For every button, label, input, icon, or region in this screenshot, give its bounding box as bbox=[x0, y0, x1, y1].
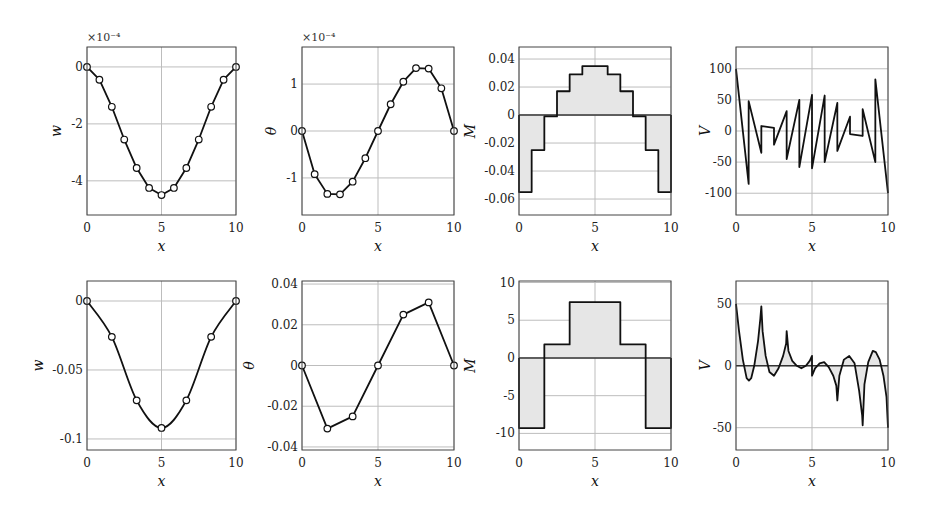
x-tick-label: 10 bbox=[663, 221, 678, 235]
data-marker bbox=[425, 65, 432, 72]
y-tick-label: -0.04 bbox=[484, 164, 515, 178]
x-tick-label: 5 bbox=[591, 456, 599, 470]
x-axis-label: x bbox=[591, 238, 599, 254]
x-axis-label: x bbox=[158, 238, 166, 254]
data-marker bbox=[413, 65, 420, 72]
subplot-bottom-M: 05101050-5-10xM bbox=[462, 276, 679, 489]
x-axis-label: x bbox=[374, 473, 382, 489]
y-tick-label: 10 bbox=[500, 276, 515, 290]
x-tick-label: 0 bbox=[83, 221, 91, 235]
data-marker bbox=[171, 185, 178, 192]
x-axis-label: x bbox=[374, 238, 382, 254]
y-tick-label: -50 bbox=[713, 155, 732, 169]
data-marker bbox=[362, 155, 369, 162]
x-tick-label: 5 bbox=[808, 221, 816, 235]
data-marker bbox=[208, 103, 215, 110]
subplot-bottom-V: 0510500-50xV bbox=[697, 281, 896, 489]
data-marker bbox=[133, 397, 140, 404]
y-tick-label: -4 bbox=[71, 174, 83, 188]
x-tick-label: 0 bbox=[732, 456, 740, 470]
subplot-top-w: 05100-2-4xw×10⁻⁴ bbox=[48, 31, 244, 254]
x-tick-label: 10 bbox=[880, 221, 895, 235]
x-tick-label: 10 bbox=[663, 456, 678, 470]
subplot-top-V: 0510100500-50-100xV bbox=[697, 47, 896, 254]
axis-multiplier: ×10⁻⁴ bbox=[87, 31, 121, 44]
x-tick-label: 5 bbox=[374, 221, 382, 235]
x-axis-label: x bbox=[591, 473, 599, 489]
data-marker bbox=[349, 178, 356, 185]
y-tick-label: 0 bbox=[75, 60, 83, 74]
y-tick-label: 0 bbox=[290, 359, 298, 373]
data-marker bbox=[400, 78, 407, 85]
y-tick-label: 0.02 bbox=[271, 318, 298, 332]
y-axis-label: V bbox=[697, 359, 713, 371]
y-tick-label: -2 bbox=[71, 117, 83, 131]
y-tick-label: 5 bbox=[507, 313, 515, 327]
x-axis-label: x bbox=[808, 473, 816, 489]
y-tick-label: -50 bbox=[713, 421, 732, 435]
data-marker bbox=[121, 136, 128, 143]
data-marker bbox=[425, 299, 432, 306]
subplot-bottom-theta: 05100.040.020-0.02-0.04xθ bbox=[241, 277, 462, 489]
y-tick-label: 0 bbox=[290, 124, 298, 138]
subplot-top-M: 05100.040.020-0.02-0.04-0.06xM bbox=[462, 47, 679, 254]
data-marker bbox=[208, 334, 215, 341]
x-tick-label: 0 bbox=[83, 456, 91, 470]
y-tick-label: 100 bbox=[709, 62, 732, 76]
x-tick-label: 5 bbox=[591, 221, 599, 235]
y-tick-label: 0.04 bbox=[488, 52, 515, 66]
data-marker bbox=[109, 103, 116, 110]
axis-multiplier: ×10⁻⁴ bbox=[302, 31, 336, 44]
x-tick-label: 0 bbox=[515, 456, 523, 470]
y-tick-label: -0.04 bbox=[267, 440, 298, 454]
y-axis-label: w bbox=[48, 125, 64, 137]
data-marker bbox=[324, 425, 331, 432]
y-tick-label: 1 bbox=[290, 77, 298, 91]
y-tick-label: -5 bbox=[503, 389, 515, 403]
y-tick-label: 0 bbox=[724, 359, 732, 373]
x-tick-label: 0 bbox=[732, 221, 740, 235]
data-marker bbox=[195, 136, 202, 143]
x-tick-label: 5 bbox=[374, 456, 382, 470]
data-marker bbox=[109, 334, 116, 341]
y-tick-label: 0.02 bbox=[488, 80, 515, 94]
data-marker bbox=[400, 311, 407, 318]
y-tick-label: 50 bbox=[717, 297, 732, 311]
y-axis-label: M bbox=[462, 358, 478, 374]
y-tick-label: -0.1 bbox=[60, 432, 83, 446]
y-axis-label: w bbox=[30, 359, 46, 371]
data-marker bbox=[133, 165, 140, 172]
x-tick-label: 10 bbox=[228, 456, 243, 470]
y-tick-label: -10 bbox=[496, 426, 515, 440]
data-marker bbox=[375, 128, 382, 135]
data-marker bbox=[158, 192, 165, 199]
figure: 05100-2-4xw×10⁻⁴051010-1xθ×10⁻⁴05100.040… bbox=[0, 0, 931, 509]
x-tick-label: 10 bbox=[446, 221, 461, 235]
data-marker bbox=[183, 397, 190, 404]
data-marker bbox=[146, 185, 153, 192]
y-tick-label: 0 bbox=[75, 294, 83, 308]
data-marker bbox=[438, 85, 445, 92]
data-marker bbox=[324, 191, 331, 198]
y-tick-label: -1 bbox=[286, 171, 298, 185]
x-tick-label: 5 bbox=[158, 221, 166, 235]
y-tick-label: -0.05 bbox=[52, 363, 83, 377]
y-tick-label: 0.04 bbox=[271, 277, 298, 291]
x-tick-label: 5 bbox=[808, 456, 816, 470]
y-tick-label: 0 bbox=[507, 351, 515, 365]
y-tick-label: 0 bbox=[724, 124, 732, 138]
x-tick-label: 0 bbox=[515, 221, 523, 235]
data-marker bbox=[96, 76, 103, 83]
y-axis-label: θ bbox=[263, 126, 279, 135]
y-axis-label: M bbox=[462, 123, 478, 139]
y-tick-label: -0.02 bbox=[267, 399, 298, 413]
data-marker bbox=[158, 425, 165, 432]
x-tick-label: 0 bbox=[298, 221, 306, 235]
data-marker bbox=[349, 413, 356, 420]
x-tick-label: 10 bbox=[446, 456, 461, 470]
y-tick-label: -100 bbox=[705, 186, 732, 200]
subplot-top-theta: 051010-1xθ×10⁻⁴ bbox=[263, 31, 462, 254]
y-tick-label: 50 bbox=[717, 93, 732, 107]
data-marker bbox=[220, 76, 227, 83]
y-tick-label: 0 bbox=[507, 108, 515, 122]
